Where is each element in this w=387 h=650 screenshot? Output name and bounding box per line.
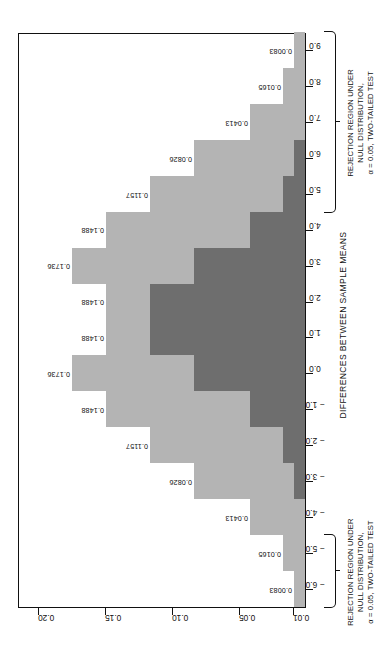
bar-value-label: 0.1488 [81,298,104,307]
bar-value-label: 0.1488 [81,334,104,343]
bar-value-label: 0.0413 [225,514,248,523]
x-axis-tick-label: 5.0 [309,185,321,195]
rejection-brace-left [324,534,336,608]
bar-true-distribution [106,284,150,320]
bar-overlap [150,320,305,356]
bar-null-distribution [72,355,194,391]
bar-true-distribution [106,212,250,248]
x-axis-tick-label: − 2.0 [306,436,325,446]
bar-true-distribution [283,68,305,104]
x-axis-tick-label: 0.0 [309,364,321,374]
bar-overlap [294,463,305,499]
bar-overlap [150,284,305,320]
bar-null-distribution [106,391,250,427]
rejection-label-left: REJECTION REGION UNDER NULL DISTRIBUTION… [346,510,376,634]
bar-overlap [194,355,305,391]
bar-value-label: 0.0165 [258,83,281,92]
x-axis-tick-label: − 6.0 [306,580,325,590]
y-axis-tick-label: 0.01 [293,613,309,623]
x-axis-tick-label: 7.0 [309,113,321,123]
bar-true-distribution [250,104,305,140]
x-axis-tick-label: 9.0 [309,41,321,51]
bar-value-label: 0.0826 [170,155,193,164]
rejection-label-right: REJECTION REGION UNDER NULL DISTRIBUTION… [346,61,376,185]
x-axis-tick-label: 3.0 [309,257,321,267]
y-axis-tick-label: 0.05 [239,613,255,623]
bar-value-label: 0.0083 [269,47,292,56]
bar-overlap [294,140,305,176]
bar-true-distribution [150,176,283,212]
bar-null-distribution [294,571,305,607]
y-axis-tick-label: 0.10 [172,613,188,623]
x-axis-tick-label: − 3.0 [306,472,325,482]
x-axis-tick-label: 1.0 [309,328,321,338]
x-axis-tick-label: − 1.0 [306,400,325,410]
bar-value-label: 0.1736 [48,262,71,271]
bar-null-distribution [250,499,305,535]
bar-overlap [283,176,305,212]
bar-overlap [250,212,305,248]
bar-overlap [194,248,305,284]
bar-true-distribution [194,140,294,176]
x-axis-tick-label: − 5.0 [306,544,325,554]
bar-true-distribution [72,248,194,284]
bar-value-label: 0.1736 [48,370,71,379]
bar-value-label: 0.1488 [81,226,104,235]
plot-area: 0.00830.01650.04130.08260.11570.14880.17… [18,33,306,608]
bar-value-label: 0.1157 [126,191,148,200]
bar-null-distribution [283,535,305,571]
bar-overlap [250,391,305,427]
bar-overlap [283,427,305,463]
bar-null-distribution [194,463,294,499]
x-axis-tick-label: − 4.0 [306,508,325,518]
bar-null-distribution [106,320,150,356]
bar-value-label: 0.0826 [170,478,193,487]
rotated-figure-wrapper: DISTRIBUTION OF X̄1 − X̄2 UNDER H0: μ1 =… [0,0,387,650]
bar-null-distribution [150,427,283,463]
x-axis-tick-label: 4.0 [309,221,321,231]
rejection-brace-right [324,31,336,213]
x-axis-tick-label: 2.0 [309,293,321,303]
bar-value-label: 0.0083 [269,586,292,595]
x-axis-tick-label: 6.0 [309,149,321,159]
bar-value-label: 0.0413 [225,119,248,128]
bar-value-label: 0.1157 [126,442,148,451]
bar-value-label: 0.1488 [81,406,104,415]
x-axis-tick-label: 8.0 [309,77,321,87]
bar-true-distribution [294,32,305,68]
chart-figure: DISTRIBUTION OF X̄1 − X̄2 UNDER H0: μ1 =… [0,0,387,650]
y-axis-tick-label: 0.20 [38,613,54,623]
bar-value-label: 0.0165 [258,550,281,559]
y-axis-tick-label: 0.15 [105,613,121,623]
